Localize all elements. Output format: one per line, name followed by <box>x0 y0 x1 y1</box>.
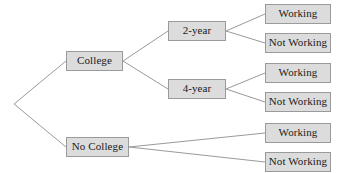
edge-two-year-to-not-working <box>226 31 265 43</box>
tree-diagram: CollegeNo College2-year4-yearWorkingNot … <box>0 0 344 173</box>
node-college[interactable]: College <box>66 51 123 71</box>
edge-root-to-no-college <box>14 104 66 147</box>
edge-college-to-four-year <box>123 61 168 89</box>
node-four-year[interactable]: 4-year <box>168 79 226 99</box>
edge-college-to-two-year <box>123 31 168 61</box>
node-label-working-2year: Working <box>279 8 318 20</box>
node-label-no-college: No College <box>72 141 123 153</box>
edge-no-college-to-not-working <box>129 147 265 162</box>
edge-root-to-college <box>14 61 66 104</box>
node-not-working-2year[interactable]: Not Working <box>265 33 331 53</box>
edge-no-college-to-working <box>129 133 265 147</box>
node-two-year[interactable]: 2-year <box>168 21 226 41</box>
edge-four-year-to-not-working <box>226 89 265 102</box>
node-label-four-year: 4-year <box>183 83 212 95</box>
node-label-not-working-nocollege: Not Working <box>269 156 327 168</box>
edge-four-year-to-working <box>226 73 265 89</box>
node-label-working-nocollege: Working <box>279 127 318 139</box>
node-no-college[interactable]: No College <box>66 137 129 157</box>
node-label-not-working-2year: Not Working <box>269 37 327 49</box>
edge-two-year-to-working <box>226 14 265 31</box>
node-working-2year[interactable]: Working <box>265 4 331 24</box>
node-label-working-4year: Working <box>279 67 318 79</box>
node-not-working-4year[interactable]: Not Working <box>265 92 331 112</box>
node-working-4year[interactable]: Working <box>265 63 331 83</box>
node-label-college: College <box>77 55 112 67</box>
node-label-two-year: 2-year <box>183 25 212 37</box>
node-label-not-working-4year: Not Working <box>269 96 327 108</box>
node-working-nocollege[interactable]: Working <box>265 123 331 143</box>
node-not-working-nocollege[interactable]: Not Working <box>265 152 331 172</box>
